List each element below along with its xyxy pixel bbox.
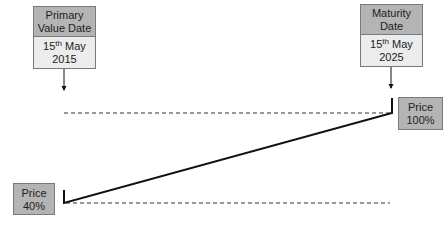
month: May	[392, 38, 413, 50]
year: 2025	[361, 51, 422, 64]
price-end-label: Price	[399, 101, 442, 114]
primary-value-date-label: Primary Value Date	[34, 7, 95, 37]
month: May	[65, 40, 86, 52]
maturity-date-arrowhead-icon	[389, 84, 394, 89]
year: 2015	[34, 53, 95, 66]
price-accretion-line	[64, 98, 392, 203]
day-suffix: th	[382, 37, 389, 46]
label-line: Maturity	[361, 7, 422, 20]
primary-value-date-box: Primary Value Date 15th May 2015	[33, 6, 96, 69]
maturity-date-value: 15th May 2025	[361, 35, 422, 66]
price-start-box: Price 40%	[13, 183, 55, 215]
day: 15	[370, 38, 382, 50]
primary-value-date-value: 15th May 2015	[34, 37, 95, 68]
day: 15	[43, 40, 55, 52]
price-start-value: 40%	[14, 200, 54, 213]
label-line: Value Date	[34, 22, 95, 35]
day-suffix: th	[55, 39, 62, 48]
price-end-box: Price 100%	[398, 97, 443, 130]
maturity-date-box: Maturity Date 15th May 2025	[360, 4, 423, 67]
maturity-date-label: Maturity Date	[361, 5, 422, 35]
label-line: Date	[361, 20, 422, 33]
primary-date-arrowhead-icon	[62, 86, 67, 91]
price-start-label: Price	[14, 187, 54, 200]
price-end-value: 100%	[399, 114, 442, 127]
label-line: Primary	[34, 9, 95, 22]
